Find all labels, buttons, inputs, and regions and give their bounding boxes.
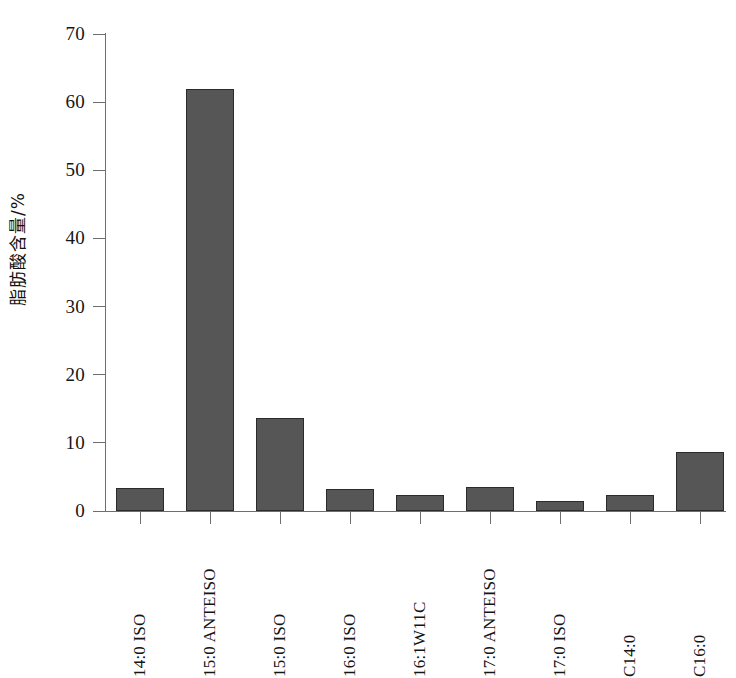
x-tick-mark bbox=[280, 511, 281, 524]
x-tick-mark bbox=[560, 511, 561, 524]
bar-slot bbox=[105, 34, 175, 511]
x-tick-label: 14:0 ISO bbox=[130, 528, 150, 678]
y-tick-label: 50 bbox=[39, 160, 85, 179]
bar[interactable] bbox=[186, 89, 234, 511]
y-tick-mark bbox=[93, 238, 105, 239]
x-tick-mark bbox=[630, 511, 631, 524]
y-tick-mark bbox=[93, 511, 105, 512]
x-tick-label: 16:1W11C bbox=[410, 528, 430, 678]
x-tick-label-text: C14:0 bbox=[621, 527, 639, 677]
x-tick-label-text: C16:0 bbox=[691, 527, 709, 677]
bar[interactable] bbox=[396, 495, 444, 511]
bar[interactable] bbox=[676, 452, 724, 511]
y-tick-label-text: 10 bbox=[39, 433, 85, 452]
x-tick-label: 16:0 ISO bbox=[340, 528, 360, 678]
y-tick-mark bbox=[93, 170, 105, 171]
y-tick-label: 10 bbox=[39, 433, 85, 452]
bar[interactable] bbox=[116, 488, 164, 511]
x-tick-label-text: 17:0 ISO bbox=[551, 527, 569, 677]
y-tick-label-text: 50 bbox=[39, 160, 85, 179]
x-tick-label-text: 14:0 ISO bbox=[131, 527, 149, 677]
x-tick-label: 15:0 ISO bbox=[270, 528, 290, 678]
y-tick-mark bbox=[93, 34, 105, 35]
bar-slot bbox=[175, 34, 245, 511]
x-tick-label: C16:0 bbox=[690, 528, 710, 678]
x-tick-label: C14:0 bbox=[620, 528, 640, 678]
bar[interactable] bbox=[256, 418, 304, 511]
y-tick-mark bbox=[93, 306, 105, 307]
x-tick-label-text: 17:0 ANTEISO bbox=[481, 527, 499, 677]
x-tick-mark bbox=[490, 511, 491, 524]
x-tick-mark bbox=[350, 511, 351, 524]
bar-slot bbox=[315, 34, 385, 511]
bar[interactable] bbox=[326, 489, 374, 511]
y-tick-label-text: 30 bbox=[39, 297, 85, 316]
bar-slot bbox=[665, 34, 735, 511]
x-tick-label-text: 15:0 ANTEISO bbox=[201, 527, 219, 677]
y-tick-label-text: 70 bbox=[39, 24, 85, 43]
y-tick-mark bbox=[93, 442, 105, 443]
x-tick-mark bbox=[700, 511, 701, 524]
y-tick-label: 60 bbox=[39, 92, 85, 111]
y-tick-label: 30 bbox=[39, 297, 85, 316]
y-tick-label: 0 bbox=[39, 501, 85, 520]
x-tick-mark bbox=[140, 511, 141, 524]
y-tick-label: 20 bbox=[39, 365, 85, 384]
x-tick-label: 17:0 ANTEISO bbox=[480, 528, 500, 678]
bar-slot bbox=[385, 34, 455, 511]
y-tick-label: 40 bbox=[39, 228, 85, 247]
x-tick-label: 17:0 ISO bbox=[550, 528, 570, 678]
x-tick-mark bbox=[420, 511, 421, 524]
bar[interactable] bbox=[536, 501, 584, 511]
y-tick-label: 70 bbox=[39, 24, 85, 43]
y-tick-label-text: 40 bbox=[39, 228, 85, 247]
bar[interactable] bbox=[606, 495, 654, 511]
y-tick-label-text: 60 bbox=[39, 92, 85, 111]
x-tick-label-text: 16:1W11C bbox=[411, 527, 429, 677]
plot-area bbox=[105, 34, 726, 511]
x-axis-line bbox=[105, 511, 726, 512]
x-tick-label-text: 15:0 ISO bbox=[271, 527, 289, 677]
x-tick-mark bbox=[210, 511, 211, 524]
x-tick-label-text: 16:0 ISO bbox=[341, 527, 359, 677]
x-tick-label: 15:0 ANTEISO bbox=[200, 528, 220, 678]
bar[interactable] bbox=[466, 487, 514, 511]
bar-slot bbox=[525, 34, 595, 511]
bar-slot bbox=[455, 34, 525, 511]
y-axis-ticks: 010203040506070 bbox=[0, 0, 105, 676]
y-tick-label-text: 20 bbox=[39, 365, 85, 384]
y-tick-mark bbox=[93, 102, 105, 103]
y-tick-mark bbox=[93, 374, 105, 375]
y-tick-label-text: 0 bbox=[39, 501, 85, 520]
bar-slot bbox=[245, 34, 315, 511]
bar-slot bbox=[595, 34, 665, 511]
